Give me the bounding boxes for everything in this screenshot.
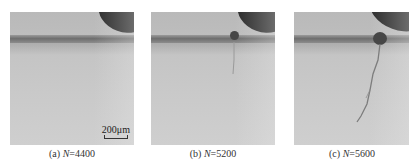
caption-label: (b) — [190, 148, 204, 159]
caption-value: =4400 — [69, 148, 95, 159]
caption-value: =5600 — [349, 148, 375, 159]
caption-variable: N — [204, 148, 211, 159]
scale-bar-line — [104, 135, 128, 139]
caption-c: (c) N=5600 — [290, 148, 414, 159]
caption-a: (a) N=4400 — [10, 148, 134, 159]
caption-b: (b) N=5200 — [151, 148, 275, 159]
scale-bar: 200μm — [102, 124, 130, 139]
caption-value: =5200 — [211, 148, 237, 159]
crack-line — [294, 12, 409, 145]
micrograph-a: 200μm — [10, 12, 134, 145]
caption-label: (c) — [329, 148, 343, 159]
crack-line — [151, 12, 275, 145]
caption-label: (a) — [49, 148, 63, 159]
micrograph-c — [294, 12, 409, 145]
micrograph-b — [151, 12, 275, 145]
scale-bar-label: 200μm — [102, 124, 130, 135]
